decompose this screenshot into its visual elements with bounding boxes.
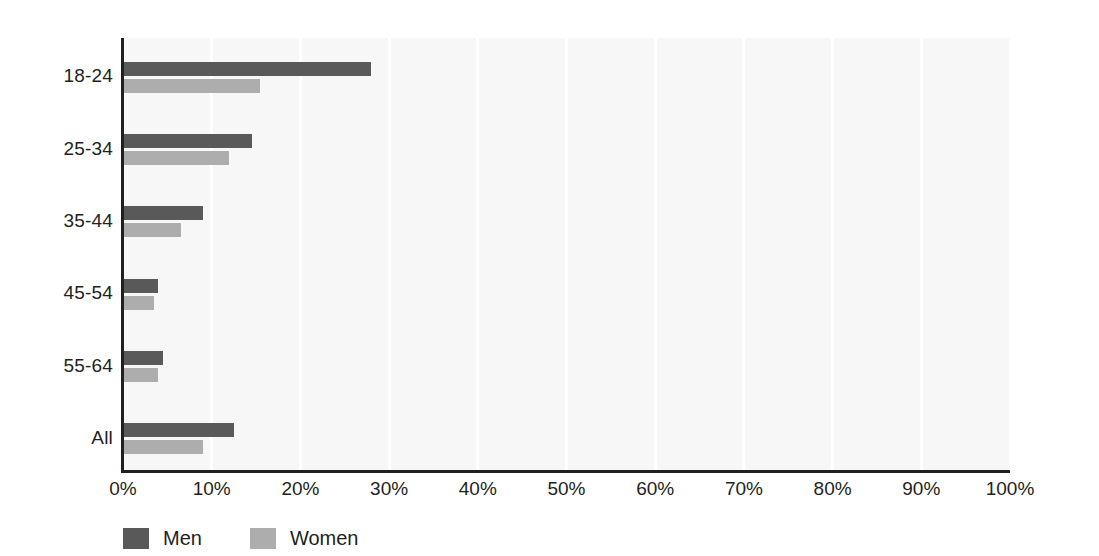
bar-women-25-34 [123, 151, 229, 165]
bar-men-18-24 [123, 62, 371, 76]
bar-women-55-64 [123, 368, 158, 382]
bar-group-18-24 [123, 62, 1010, 93]
y-tick-label-55-64: 55-64 [3, 355, 113, 377]
gridline-80 [831, 38, 834, 472]
legend-item-men[interactable]: Men [123, 527, 202, 550]
bar-women-35-44 [123, 223, 181, 237]
x-tick-label-30: 30% [370, 478, 408, 500]
x-tick-label-50: 50% [547, 478, 585, 500]
legend-item-women[interactable]: Women [250, 527, 359, 550]
bar-men-55-64 [123, 351, 163, 365]
y-axis-line [121, 38, 124, 472]
gridline-40 [476, 38, 479, 472]
bar-women-All [123, 440, 203, 454]
gridline-50 [565, 38, 568, 472]
x-tick-label-0: 0% [109, 478, 136, 500]
x-axis-tick-labels: 0%10%20%30%40%50%60%70%80%90%100% [123, 478, 1010, 508]
y-tick-label-45-54: 45-54 [3, 282, 113, 304]
bar-group-55-64 [123, 351, 1010, 382]
gridline-20 [299, 38, 302, 472]
bar-men-35-44 [123, 206, 203, 220]
x-axis-line [121, 470, 1010, 473]
bar-chart: 18-2425-3435-4445-5455-64All 0%10%20%30%… [0, 0, 1099, 556]
legend-swatch-men-icon [123, 528, 149, 549]
x-tick-label-60: 60% [636, 478, 674, 500]
bar-women-45-54 [123, 296, 154, 310]
y-tick-label-35-44: 35-44 [3, 210, 113, 232]
x-tick-label-70: 70% [725, 478, 763, 500]
x-tick-label-40: 40% [459, 478, 497, 500]
bar-men-45-54 [123, 279, 158, 293]
plot-area [123, 38, 1010, 472]
x-tick-label-80: 80% [814, 478, 852, 500]
y-tick-label-18-24: 18-24 [3, 65, 113, 87]
gridline-60 [654, 38, 657, 472]
legend-label-men: Men [163, 527, 202, 550]
y-tick-label-All: All [3, 427, 113, 449]
gridline-10 [210, 38, 213, 472]
x-tick-label-100: 100% [986, 478, 1035, 500]
x-tick-label-10: 10% [193, 478, 231, 500]
bar-group-45-54 [123, 279, 1010, 310]
chart-legend: MenWomen [123, 524, 406, 552]
gridline-30 [388, 38, 391, 472]
x-tick-label-90: 90% [902, 478, 940, 500]
legend-swatch-women-icon [250, 528, 276, 549]
bar-men-All [123, 423, 234, 437]
bar-men-25-34 [123, 134, 252, 148]
gridline-100 [1009, 38, 1012, 472]
bar-group-All [123, 423, 1010, 454]
legend-label-women: Women [290, 527, 359, 550]
gridline-90 [920, 38, 923, 472]
bar-group-25-34 [123, 134, 1010, 165]
gridline-70 [742, 38, 745, 472]
y-axis-tick-labels: 18-2425-3435-4445-5455-64All [0, 38, 113, 472]
x-tick-label-20: 20% [281, 478, 319, 500]
bar-group-35-44 [123, 206, 1010, 237]
y-tick-label-25-34: 25-34 [3, 138, 113, 160]
bar-women-18-24 [123, 79, 260, 93]
